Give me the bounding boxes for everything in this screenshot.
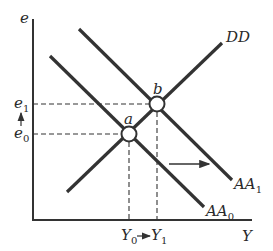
ad-aa-diagram: e Y DD AA1 AA0 a b e1 e0 Y0 Y1 (0, 0, 273, 251)
point-a-label: a (124, 110, 133, 128)
aa0-label: AA0 (204, 202, 234, 222)
point-a-marker (122, 127, 137, 142)
dd-curve (67, 43, 222, 192)
point-b-marker (150, 97, 165, 112)
y0-tick-label: Y0 (121, 226, 137, 246)
dd-label: DD (225, 28, 250, 46)
y1-tick-label: Y1 (151, 226, 167, 246)
point-b-label: b (153, 80, 163, 98)
y-axis-label: e (20, 9, 29, 27)
e0-tick-label: e0 (14, 124, 29, 144)
e1-tick-label: e1 (14, 94, 29, 114)
x-axis-label: Y (242, 227, 254, 245)
aa1-label: AA1 (232, 175, 262, 195)
